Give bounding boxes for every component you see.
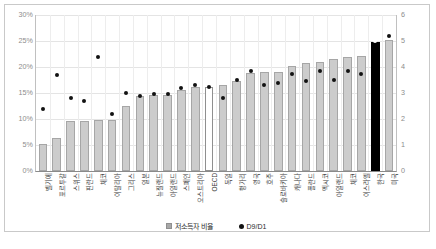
y-axis-left-tick-label: 5% bbox=[9, 141, 33, 149]
x-axis-category-labels: 벨기에포르투갈스위스핀란드체코이탈리아그리스일본뉴질랜드아일랜드스페인오스트리아… bbox=[35, 173, 397, 219]
bar-벨기에 bbox=[39, 144, 48, 171]
x-axis-label-캐나다: 캐나다 bbox=[294, 173, 301, 217]
gridline-vertical bbox=[64, 15, 65, 171]
gridline-vertical bbox=[202, 15, 203, 171]
dot-OECD bbox=[207, 85, 211, 89]
bar-일본 bbox=[136, 96, 145, 171]
dot-벨기에 bbox=[41, 107, 45, 111]
dot-핀란드 bbox=[82, 99, 86, 103]
y-axis-left-tick-label: 30% bbox=[9, 11, 33, 19]
x-axis-label-스위스: 스위스 bbox=[73, 173, 80, 217]
x-axis-label-OECD: OECD bbox=[211, 173, 218, 217]
bar-한국 bbox=[371, 42, 380, 171]
bar-영국 bbox=[246, 73, 255, 171]
gridline-vertical bbox=[147, 15, 148, 171]
bar-미국 bbox=[385, 40, 394, 171]
bar-캐나다 bbox=[288, 66, 297, 171]
dot-일본 bbox=[138, 94, 142, 98]
gridline-vertical bbox=[244, 15, 245, 171]
x-axis-label-그리스: 그리스 bbox=[128, 173, 135, 217]
gridline-vertical bbox=[174, 15, 175, 171]
gridline-vertical bbox=[285, 15, 286, 171]
dot-아일랜드 bbox=[332, 78, 336, 82]
bar-아일랜드 bbox=[163, 95, 172, 171]
dot-이탈리아 bbox=[110, 112, 114, 116]
gridline-vertical bbox=[368, 15, 369, 171]
bar-멕시코 bbox=[316, 62, 325, 171]
gridline-vertical bbox=[299, 15, 300, 171]
gridline-vertical bbox=[341, 15, 342, 171]
bar-슬로바키아 bbox=[274, 72, 283, 171]
gridline-vertical bbox=[119, 15, 120, 171]
legend-item-dot: D9/D1 bbox=[239, 223, 267, 230]
legend-item-bar: 저소득자 비율 bbox=[166, 221, 213, 231]
dot-포르투갈 bbox=[55, 73, 59, 77]
bar-스페인 bbox=[177, 90, 186, 171]
x-axis-label-이탈리아: 이탈리아 bbox=[114, 173, 121, 217]
dot-슬로바키아 bbox=[276, 81, 280, 85]
gridline-vertical bbox=[133, 15, 134, 171]
bar-오스트리아 bbox=[191, 87, 200, 171]
dot-영국 bbox=[249, 69, 253, 73]
dot-스페인 bbox=[179, 86, 183, 90]
bar-이탈리아 bbox=[108, 120, 117, 171]
bar-체코 bbox=[94, 120, 103, 171]
x-axis-label-아일랜드: 아일랜드 bbox=[336, 173, 343, 217]
bar-스위스 bbox=[66, 121, 75, 171]
x-axis-label-호주: 호주 bbox=[266, 173, 273, 217]
dot-스위스 bbox=[69, 96, 73, 100]
gridline-vertical bbox=[188, 15, 189, 171]
x-axis-label-벨기에: 벨기에 bbox=[45, 173, 52, 217]
bar-핀란드 bbox=[80, 121, 89, 171]
dot-헝가리 bbox=[235, 78, 239, 82]
x-axis-label-핀란드: 핀란드 bbox=[86, 173, 93, 217]
dot-체코 bbox=[96, 55, 100, 59]
legend-bar-swatch-icon bbox=[166, 223, 172, 229]
bar-헝가리 bbox=[232, 81, 241, 171]
y-axis-right-tick-label: 3 bbox=[401, 89, 423, 97]
gridline-vertical bbox=[50, 15, 51, 171]
gridline-vertical bbox=[91, 15, 92, 171]
x-axis-label-체코: 체코 bbox=[100, 173, 107, 217]
legend-dot-label: D9/D1 bbox=[247, 223, 267, 230]
gridline-vertical bbox=[230, 15, 231, 171]
y-axis-left-tick-label: 20% bbox=[9, 63, 33, 71]
x-axis-label-아일랜드: 아일랜드 bbox=[170, 173, 177, 217]
gridline-vertical bbox=[105, 15, 106, 171]
gridline-vertical bbox=[327, 15, 328, 171]
dot-캐나다 bbox=[290, 72, 294, 76]
legend-dot-swatch-icon bbox=[239, 224, 244, 229]
x-axis-label-포르투갈: 포르투갈 bbox=[59, 173, 66, 217]
y-axis-right-tick-label: 5 bbox=[401, 37, 423, 45]
x-axis-label-멕시코: 멕시코 bbox=[322, 173, 329, 217]
dot-이스라엘 bbox=[359, 72, 363, 76]
gridline-vertical bbox=[161, 15, 162, 171]
bar-아일랜드 bbox=[329, 59, 338, 171]
bar-체코 bbox=[343, 57, 352, 171]
y-axis-right-tick-label: 4 bbox=[401, 63, 423, 71]
bar-뉴질랜드 bbox=[149, 95, 158, 171]
y-axis-right-tick-label: 2 bbox=[401, 115, 423, 123]
dot-체코 bbox=[346, 69, 350, 73]
x-axis-label-일본: 일본 bbox=[142, 173, 149, 217]
x-axis-label-슬로바키아: 슬로바키아 bbox=[280, 173, 287, 217]
dot-그리스 bbox=[124, 91, 128, 95]
gridline-vertical bbox=[354, 15, 355, 171]
gridline-vertical bbox=[382, 15, 383, 171]
dot-미국 bbox=[387, 34, 391, 38]
gridline-vertical bbox=[216, 15, 217, 171]
y-axis-right-tick-label: 6 bbox=[401, 11, 423, 19]
dot-아일랜드 bbox=[166, 92, 170, 96]
chart-container: 벨기에포르투갈스위스핀란드체코이탈리아그리스일본뉴질랜드아일랜드스페인오스트리아… bbox=[4, 4, 430, 232]
x-axis-label-영국: 영국 bbox=[253, 173, 260, 217]
x-axis-label-폴란드: 폴란드 bbox=[308, 173, 315, 217]
plot-area bbox=[35, 15, 397, 172]
x-axis-label-한국: 한국 bbox=[377, 173, 384, 217]
x-axis-label-독일: 독일 bbox=[225, 173, 232, 217]
y-axis-left-tick-label: 15% bbox=[9, 89, 33, 97]
chart-legend: 저소득자 비율 D9/D1 bbox=[35, 220, 397, 232]
y-axis-left-tick-label: 25% bbox=[9, 37, 33, 45]
y-axis-right-tick-label: 0 bbox=[401, 167, 423, 175]
bar-호주 bbox=[260, 72, 269, 171]
bar-OECD bbox=[205, 87, 214, 171]
